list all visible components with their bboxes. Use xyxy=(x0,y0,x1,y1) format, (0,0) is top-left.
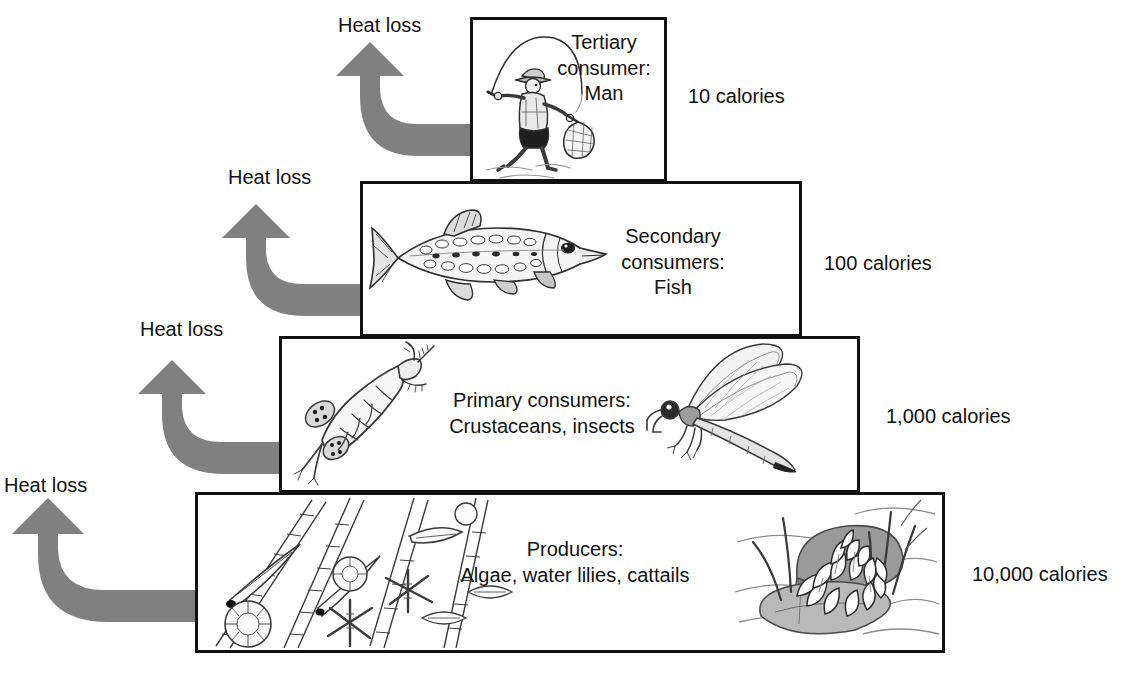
tier-box-tertiary-consumer xyxy=(470,17,667,182)
energy-pyramid-diagram: Heat loss Heat loss Heat loss Heat loss xyxy=(0,0,1123,677)
heat-loss-label-tertiary-consumer: Heat loss xyxy=(338,14,421,37)
calories-label-secondary-consumers: 100 calories xyxy=(824,252,932,275)
heat-loss-arrow-secondary-consumers xyxy=(222,198,370,333)
tier-box-producers xyxy=(195,492,945,653)
heat-loss-arrow-producers xyxy=(4,478,219,643)
heat-loss-label-secondary-consumers: Heat loss xyxy=(228,166,311,189)
calories-label-primary-consumers: 1,000 calories xyxy=(886,405,1011,428)
heat-loss-arrow-primary-consumers xyxy=(136,352,301,492)
heat-loss-arrow-tertiary-consumer xyxy=(334,34,482,179)
heat-loss-label-producers: Heat loss xyxy=(4,474,87,497)
tier-box-primary-consumers xyxy=(279,336,860,493)
heat-loss-label-primary-consumers: Heat loss xyxy=(140,318,223,341)
calories-label-producers: 10,000 calories xyxy=(972,563,1108,586)
calories-label-tertiary-consumer: 10 calories xyxy=(688,85,785,108)
tier-box-secondary-consumers xyxy=(360,181,802,337)
